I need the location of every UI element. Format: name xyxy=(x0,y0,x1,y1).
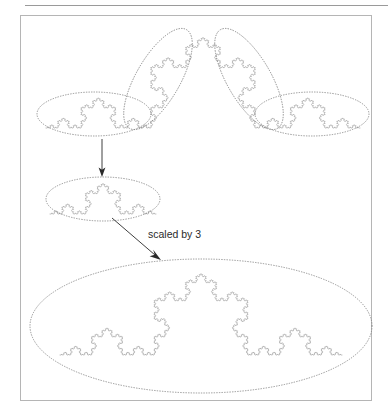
bottom-koch-curve xyxy=(60,274,342,355)
scaled-curve-group xyxy=(30,259,372,393)
group-ellipse-scaled xyxy=(30,259,372,393)
top-curve-group xyxy=(37,19,369,140)
extract-arrow xyxy=(99,139,106,177)
figure-canvas: scaled by 3 xyxy=(0,0,392,414)
koch-figure-root: scaled by 3 xyxy=(0,0,392,414)
scale-label: scaled by 3 xyxy=(148,228,201,240)
extracted-copy-group xyxy=(46,177,160,221)
group-ellipse-top-middle-left xyxy=(110,19,205,140)
extracted-koch-curve xyxy=(50,183,156,214)
group-ellipse-top-middle-right xyxy=(201,19,296,140)
top-koch-curve xyxy=(46,37,360,128)
